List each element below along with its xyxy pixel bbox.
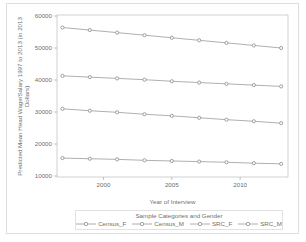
- y-tick-label: 20000: [35, 140, 53, 147]
- series-marker-Census_M: [280, 85, 283, 88]
- x-tick-label: 2000: [97, 181, 111, 188]
- legend-entry-Census_F: Census_F: [76, 220, 126, 227]
- series-marker-SRC_F: [170, 114, 173, 117]
- legend-entry-label: SRC_M: [260, 220, 282, 227]
- legend-line-marker-icon: [190, 221, 210, 227]
- x-tick-label: 2010: [233, 181, 247, 188]
- series-marker-Census_M: [225, 82, 228, 85]
- series-marker-Census_F: [116, 158, 119, 161]
- series-marker-SRC_F: [116, 111, 119, 114]
- series-marker-SRC_F: [280, 122, 283, 125]
- series-marker-SRC_F: [88, 109, 91, 112]
- series-marker-SRC_M: [61, 26, 64, 29]
- legend-title: Sample Categories and Gender: [76, 212, 282, 219]
- series-marker-SRC_M: [116, 31, 119, 34]
- series-marker-Census_M: [198, 81, 201, 84]
- x-tick-label: 2005: [165, 181, 179, 188]
- legend-entries: Census_FCensus_MSRC_FSRC_M: [76, 220, 282, 227]
- legend-entry-label: Census_F: [98, 220, 126, 227]
- series-marker-Census_F: [143, 159, 146, 162]
- legend-line-marker-icon: [238, 221, 258, 227]
- series-marker-Census_F: [280, 162, 283, 165]
- series-marker-SRC_M: [252, 44, 255, 47]
- series-marker-SRC_F: [61, 107, 64, 110]
- y-tick-label: 60000: [35, 12, 53, 19]
- y-tick-label: 40000: [35, 76, 53, 83]
- series-marker-SRC_M: [143, 34, 146, 37]
- series-marker-SRC_M: [225, 41, 228, 44]
- y-axis-label: Predicted Mean Head Wage/Salary 1997 to …: [16, 6, 31, 186]
- series-marker-Census_M: [116, 77, 119, 80]
- legend-entry-SRC_M: SRC_M: [238, 220, 282, 227]
- series-marker-SRC_M: [280, 46, 283, 49]
- x-axis-label: Year of Interview: [57, 198, 288, 205]
- y-axis-label-line1: Predicted Mean Head Wage/Salary 1997 to …: [16, 6, 23, 186]
- series-marker-Census_F: [252, 162, 255, 165]
- series-marker-Census_F: [198, 160, 201, 163]
- legend-line-marker-icon: [132, 221, 152, 227]
- series-marker-Census_M: [252, 84, 255, 87]
- plot-window: 1000020000300004000050000600002000200520…: [0, 0, 306, 242]
- series-marker-SRC_M: [170, 36, 173, 39]
- legend-entry-Census_M: Census_M: [132, 220, 184, 227]
- series-marker-SRC_F: [143, 113, 146, 116]
- series-marker-Census_F: [88, 157, 91, 160]
- y-tick-label: 50000: [35, 44, 53, 51]
- legend-entry-label: Census_M: [154, 220, 184, 227]
- series-marker-SRC_F: [252, 120, 255, 123]
- legend-line-marker-icon: [76, 221, 96, 227]
- series-marker-SRC_M: [88, 28, 91, 31]
- series-marker-Census_M: [88, 76, 91, 79]
- series-marker-Census_F: [225, 161, 228, 164]
- series-marker-Census_M: [143, 78, 146, 81]
- series-marker-SRC_F: [198, 116, 201, 119]
- y-tick-label: 30000: [35, 108, 53, 115]
- series-marker-Census_F: [170, 159, 173, 162]
- legend-entry-label: SRC_F: [212, 220, 232, 227]
- chart-canvas: 1000020000300004000050000600002000200520…: [0, 0, 306, 242]
- series-marker-SRC_F: [225, 118, 228, 121]
- legend-box: Sample Categories and Gender Census_FCen…: [75, 210, 283, 230]
- series-marker-SRC_M: [198, 39, 201, 42]
- series-marker-Census_F: [61, 156, 64, 159]
- y-axis-label-line2: Dollars): [23, 6, 30, 186]
- series-marker-Census_M: [61, 74, 64, 77]
- y-tick-label: 10000: [35, 172, 53, 179]
- legend-entry-SRC_F: SRC_F: [190, 220, 232, 227]
- series-marker-Census_M: [170, 80, 173, 83]
